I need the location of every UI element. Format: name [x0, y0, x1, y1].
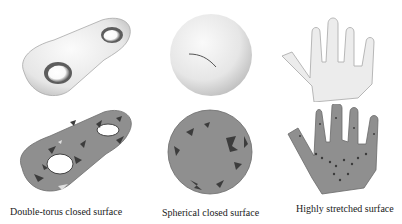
- sphere-smooth-render: [166, 10, 256, 100]
- double-torus-smooth-render: [14, 10, 134, 105]
- hand-mesh-render: [286, 104, 394, 200]
- caption-double-torus: Double-torus closed surface: [10, 206, 122, 217]
- hand-smooth-render: [278, 10, 392, 102]
- caption-hand: Highly stretched surface: [296, 203, 394, 214]
- caption-sphere: Spherical closed surface: [162, 207, 259, 218]
- double-torus-mesh-render: [12, 104, 134, 196]
- sphere-mesh-render: [164, 106, 256, 198]
